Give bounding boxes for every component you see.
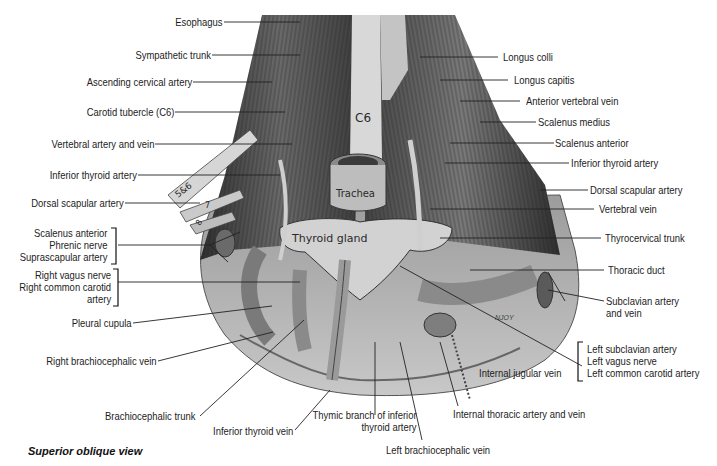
- figure-caption: Superior oblique view: [28, 445, 142, 457]
- c6-illustration-label: C6: [355, 111, 371, 125]
- label-group-right-vagus-carotid: Right vagus nerve Right common carotid a…: [19, 269, 111, 305]
- label-inferior-thyroid-artery-left: Inferior thyroid artery: [50, 169, 137, 181]
- label-scalenus-anterior-left: Scalenus anterior: [19, 227, 107, 239]
- label-right-brachiocephalic-vein: Right brachiocephalic vein: [47, 355, 157, 367]
- label-subclavian-vein: and vein: [606, 307, 679, 319]
- label-ascending-cervical-artery: Ascending cervical artery: [86, 76, 192, 88]
- label-vertebral-artery-vein: Vertebral artery and vein: [51, 138, 154, 150]
- label-left-brachiocephalic-vein: Left brachiocephalic vein: [386, 444, 490, 456]
- thyroid-label: Thyroid gland: [291, 232, 367, 245]
- label-right-common-carotid-cont: artery: [19, 293, 111, 305]
- label-inferior-thyroid-vein: Inferior thyroid vein: [213, 425, 293, 437]
- label-thyrocervical-trunk: Thyrocervical trunk: [605, 232, 685, 244]
- label-brachiocephalic-trunk: Brachiocephalic trunk: [105, 410, 195, 422]
- label-subclavian-artery: Subclavian artery: [606, 295, 679, 307]
- label-anterior-vertebral-vein: Anterior vertebral vein: [526, 95, 618, 107]
- label-right-common-carotid: Right common carotid: [19, 281, 111, 293]
- label-longus-capitis: Longus capitis: [514, 74, 574, 86]
- label-group-subclavian-artery-vein: Subclavian artery and vein: [606, 295, 679, 319]
- label-left-vagus-nerve: Left vagus nerve: [587, 355, 699, 367]
- label-scalenus-medius: Scalenus medius: [538, 116, 610, 128]
- label-longus-colli: Longus colli: [503, 51, 553, 63]
- trachea-label: Trachea: [335, 188, 375, 199]
- label-left-subclavian-artery: Left subclavian artery: [587, 343, 699, 355]
- rib-7-label: 7: [205, 201, 210, 210]
- label-vertebral-vein: Vertebral vein: [599, 203, 657, 215]
- label-thymic-branch: Thymic branch of inferior: [313, 409, 417, 421]
- label-dorsal-scapular-artery-right: Dorsal scapular artery: [590, 184, 682, 196]
- label-sympathetic-trunk: Sympathetic trunk: [135, 49, 211, 61]
- label-left-common-carotid-artery: Left common carotid artery: [587, 367, 699, 379]
- label-dorsal-scapular-artery-left: Dorsal scapular artery: [32, 197, 124, 209]
- label-pleural-cupula: Pleural cupula: [72, 317, 132, 329]
- label-thymic-branch-cont: thyroid artery: [313, 421, 417, 433]
- label-group-left-vessels: Left subclavian artery Left vagus nerve …: [587, 343, 699, 379]
- label-group-thymic-branch: Thymic branch of inferior thyroid artery: [313, 409, 417, 433]
- label-inferior-thyroid-artery-right: Inferior thyroid artery: [571, 157, 658, 169]
- label-phrenic-nerve: Phrenic nerve: [19, 239, 107, 251]
- label-internal-jugular-vein: Internal jugular vein: [479, 367, 561, 379]
- anatomy-figure: C6 5&6 7 8 Trachea Thyroid gland NJOY: [0, 0, 717, 466]
- label-suprascapular-artery: Suprascapular artery: [19, 251, 107, 263]
- label-thoracic-duct: Thoracic duct: [608, 264, 665, 276]
- label-carotid-tubercle: Carotid tubercle (C6): [86, 106, 174, 118]
- label-scalenus-anterior-right: Scalenus anterior: [555, 137, 629, 149]
- label-internal-thoracic-artery-vein: Internal thoracic artery and vein: [453, 408, 585, 420]
- label-right-vagus-nerve: Right vagus nerve: [19, 269, 111, 281]
- label-group-scalenus-phrenic-suprascapular: Scalenus anterior Phrenic nerve Suprasca…: [19, 227, 107, 263]
- label-esophagus: Esophagus: [176, 16, 223, 28]
